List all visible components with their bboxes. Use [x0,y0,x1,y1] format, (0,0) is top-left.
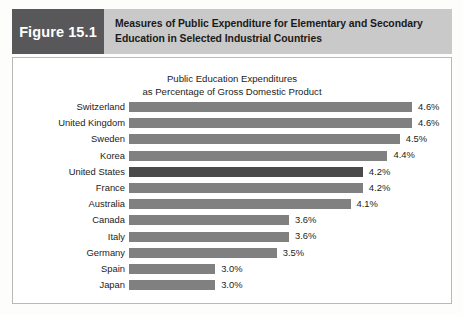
chart-row: Sweden4.5% [13,131,451,147]
bar-value-label: 4.6% [418,99,439,115]
bar-track: 3.0% [129,280,447,290]
category-label: Germany [86,245,125,261]
bar-track: 4.2% [129,183,447,193]
figure-title-line-2: Education in Selected Industrial Countri… [115,32,441,47]
figure-header: Figure 15.1 Measures of Public Expenditu… [12,9,452,54]
bar [129,215,289,225]
bar-track: 4.4% [129,151,447,161]
category-label: Japan [99,277,125,293]
bar-track: 3.6% [129,215,447,225]
bar [129,118,412,128]
bar [129,280,215,290]
bar-value-label: 4.5% [406,131,427,147]
chart-row: Germany3.5% [13,245,451,261]
category-label: Canada [92,212,125,228]
bar [129,248,277,258]
chart-row: Japan3.0% [13,277,451,293]
bar-track: 3.5% [129,248,447,258]
chart-title-line-2: as Percentage of Gross Domestic Product [13,86,451,99]
bar-value-label: 3.5% [283,245,304,261]
bar-value-label: 3.0% [221,277,242,293]
bar [129,264,215,274]
bar [129,232,289,242]
bar [129,151,387,161]
chart-panel: Public Education Expenditures as Percent… [12,57,452,304]
category-label: United Kingdom [58,115,125,131]
figure-container: Figure 15.1 Measures of Public Expenditu… [0,0,463,315]
category-label: Italy [108,229,125,245]
bar-value-label: 3.0% [221,261,242,277]
chart-title: Public Education Expenditures as Percent… [13,73,451,98]
chart-row: United States4.2% [13,164,451,180]
bar-track: 3.6% [129,232,447,242]
bar-track: 4.2% [129,167,447,177]
category-label: France [96,180,125,196]
figure-number-badge: Figure 15.1 [12,9,104,54]
bar [129,134,400,144]
bar-value-label: 4.4% [393,147,414,163]
bar-chart-plot: Switzerland4.6%United Kingdom4.6%Sweden4… [13,99,451,293]
bar-track: 4.5% [129,134,447,144]
bar-value-label: 4.1% [357,196,378,212]
bar-value-label: 3.6% [295,212,316,228]
category-label: United States [69,164,125,180]
bar-track: 4.6% [129,118,447,128]
bar-value-label: 4.2% [369,180,390,196]
category-label: Switzerland [77,99,125,115]
chart-title-line-1: Public Education Expenditures [13,73,451,86]
chart-row: Australia4.1% [13,196,451,212]
chart-row: Switzerland4.6% [13,99,451,115]
chart-row: France4.2% [13,180,451,196]
bar-value-label: 4.2% [369,164,390,180]
chart-row: Korea4.4% [13,148,451,164]
category-label: Australia [89,196,125,212]
figure-title-line-1: Measures of Public Expenditure for Eleme… [115,17,441,32]
category-label: Korea [100,148,125,164]
bar-track: 4.6% [129,102,447,112]
bar-value-label: 4.6% [418,115,439,131]
bar-track: 3.0% [129,264,447,274]
bar [129,102,412,112]
bar [129,183,363,193]
category-label: Sweden [91,131,125,147]
bar-value-label: 3.6% [295,228,316,244]
bar-track: 4.1% [129,199,447,209]
bar [129,199,351,209]
chart-row: United Kingdom4.6% [13,115,451,131]
figure-title-band: Measures of Public Expenditure for Eleme… [104,9,452,54]
chart-row: Canada3.6% [13,212,451,228]
category-label: Spain [101,261,125,277]
chart-row: Italy3.6% [13,229,451,245]
chart-row: Spain3.0% [13,261,451,277]
bar-highlighted [129,167,363,177]
